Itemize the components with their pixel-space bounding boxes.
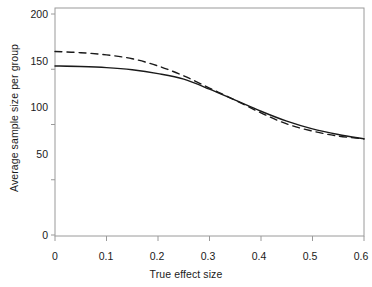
y-tick-label-100: 100	[18, 101, 48, 113]
series-line-solid	[55, 66, 364, 139]
axes-group	[55, 8, 364, 236]
y-tick-label-0: 0	[18, 229, 48, 241]
y-axis-label: Average sample size per group	[8, 18, 20, 218]
x-axis-label: True effect size	[0, 268, 372, 280]
plot-area	[0, 0, 372, 287]
x-tick-label-0.5: 0.5	[290, 250, 330, 262]
y-tick-marks	[51, 14, 55, 235]
plot-border	[55, 8, 364, 236]
x-tick-label-0.6: 0.6	[341, 250, 372, 262]
x-tick-label-0: 0	[35, 250, 75, 262]
series-lines	[55, 52, 364, 139]
series-line-dashed	[55, 52, 364, 139]
x-tick-label-0.4: 0.4	[239, 250, 279, 262]
x-tick-label-0.1: 0.1	[86, 250, 126, 262]
y-tick-label-200: 200	[18, 8, 48, 20]
chart-container: Average sample size per group True effec…	[0, 0, 372, 287]
x-tick-label-0.3: 0.3	[188, 250, 228, 262]
y-tick-label-150: 150	[18, 55, 48, 67]
x-tick-marks	[55, 236, 364, 241]
y-tick-label-50: 50	[18, 148, 48, 160]
x-tick-label-0.2: 0.2	[137, 250, 177, 262]
